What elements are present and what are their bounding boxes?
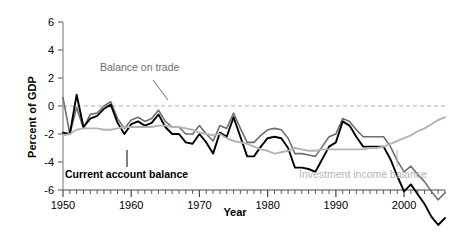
series-label-current-account-balance: Current account balance xyxy=(65,168,188,180)
y-tick-label: -2 xyxy=(44,128,54,140)
series-line-balance-on-trade xyxy=(63,98,445,200)
x-axis-title: Year xyxy=(0,206,470,218)
y-axis-ticks: 6420-2-4-6 xyxy=(44,16,63,196)
y-tick-label: 2 xyxy=(48,72,54,84)
y-tick-label: -4 xyxy=(44,156,54,168)
y-tick-label: 0 xyxy=(48,100,54,112)
y-tick-label: -6 xyxy=(44,184,54,196)
y-tick-label: 4 xyxy=(48,44,54,56)
line-chart-svg: 6420-2-4-6 195019601970198019902000 xyxy=(0,0,470,233)
y-tick-label: 6 xyxy=(48,16,54,28)
y-axis-title: Percent of GDP xyxy=(26,47,38,187)
series-label-investment-income-balance: Investment income balance xyxy=(299,168,427,180)
leader-line-trade xyxy=(153,80,168,100)
chart-container: Percent of GDP Year 6420-2-4-6 195019601… xyxy=(0,0,470,233)
series-label-balance-on-trade: Balance on trade xyxy=(100,61,179,73)
